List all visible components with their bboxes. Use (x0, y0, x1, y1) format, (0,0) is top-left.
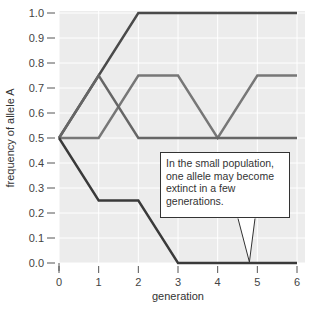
y-tick-label: 0.3 (29, 182, 44, 194)
y-tick-label: 0.6 (29, 107, 44, 119)
x-axis-title: generation (152, 290, 204, 302)
x-tick-label: 3 (175, 276, 181, 288)
y-tick-label: 0.9 (29, 32, 44, 44)
x-tick-label: 2 (135, 276, 141, 288)
x-tick-label: 4 (215, 276, 221, 288)
y-tick-label: 0.1 (29, 232, 44, 244)
y-tick-label: 0.5 (29, 132, 44, 144)
x-tick-label: 0 (56, 276, 62, 288)
y-tick-label: 0.2 (29, 207, 44, 219)
y-tick-label: 0.4 (29, 157, 44, 169)
y-tick-label: 0.0 (29, 257, 44, 269)
annotation-callout: In the small population, one allele may … (160, 152, 290, 218)
x-tick-label: 1 (96, 276, 102, 288)
y-tick-label: 1.0 (29, 7, 44, 19)
y-tick-label: 0.7 (29, 82, 44, 94)
y-tick-label: 0.8 (29, 57, 44, 69)
y-axis-title: frequency of allele A (4, 88, 16, 188)
x-tick-label: 6 (294, 276, 300, 288)
x-tick-label: 5 (254, 276, 260, 288)
